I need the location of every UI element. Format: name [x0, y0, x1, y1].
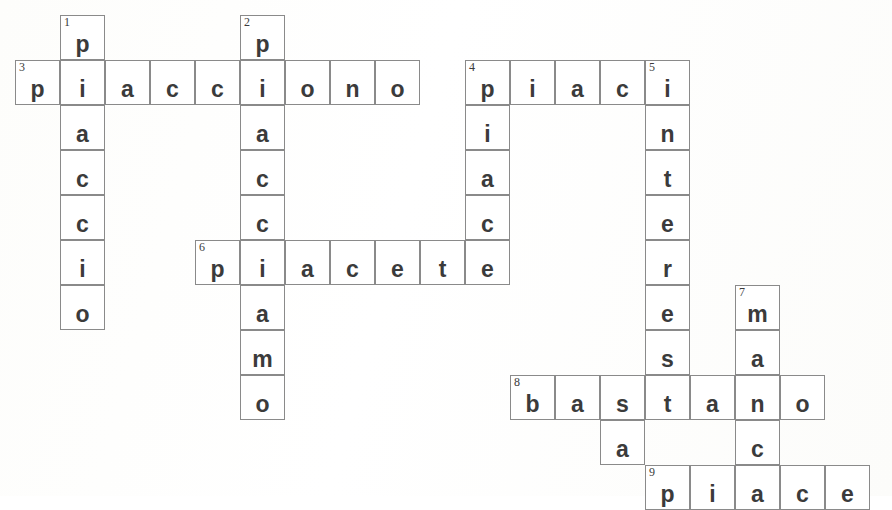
- crossword-cell[interactable]: o: [780, 375, 825, 420]
- cell-letter: i: [646, 76, 689, 102]
- cell-letter: a: [106, 76, 149, 102]
- crossword-cell[interactable]: e: [645, 195, 690, 240]
- crossword-cell[interactable]: a: [555, 375, 600, 420]
- crossword-cell[interactable]: t: [420, 240, 465, 285]
- crossword-cell[interactable]: a: [555, 60, 600, 105]
- crossword-cell[interactable]: c: [60, 150, 105, 195]
- crossword-cell[interactable]: 2p: [240, 15, 285, 60]
- crossword-cell[interactable]: i: [690, 465, 735, 510]
- cell-letter: c: [331, 256, 374, 282]
- crossword-cell[interactable]: a: [240, 285, 285, 330]
- crossword-cell[interactable]: i: [240, 240, 285, 285]
- crossword-cell[interactable]: s: [645, 330, 690, 375]
- cell-letter: e: [826, 481, 869, 507]
- crossword-cell[interactable]: a: [735, 330, 780, 375]
- cell-letter: s: [601, 391, 644, 417]
- crossword-cell[interactable]: e: [645, 285, 690, 330]
- cell-letter: i: [241, 256, 284, 282]
- clue-number: 7: [739, 286, 745, 299]
- crossword-cell[interactable]: o: [285, 60, 330, 105]
- crossword-cell[interactable]: e: [375, 240, 420, 285]
- clue-number: 6: [199, 241, 205, 254]
- cell-letter: b: [511, 391, 554, 417]
- crossword-cell[interactable]: c: [240, 150, 285, 195]
- crossword-cell[interactable]: 3p: [15, 60, 60, 105]
- crossword-cell[interactable]: c: [735, 420, 780, 465]
- crossword-cell[interactable]: i: [240, 60, 285, 105]
- crossword-cell[interactable]: e: [465, 240, 510, 285]
- crossword-cell[interactable]: n: [735, 375, 780, 420]
- crossword-cell[interactable]: c: [600, 60, 645, 105]
- crossword-cell[interactable]: m: [240, 330, 285, 375]
- cell-letter: c: [781, 481, 824, 507]
- cell-letter: c: [151, 76, 194, 102]
- cell-letter: p: [16, 76, 59, 102]
- crossword-cell[interactable]: c: [195, 60, 240, 105]
- crossword-cell[interactable]: a: [285, 240, 330, 285]
- cell-letter: i: [691, 481, 734, 507]
- cell-letter: i: [466, 121, 509, 147]
- cell-letter: t: [646, 391, 689, 417]
- crossword-cell[interactable]: 6p: [195, 240, 240, 285]
- crossword-cell[interactable]: o: [60, 285, 105, 330]
- crossword-cell[interactable]: n: [330, 60, 375, 105]
- cell-letter: p: [196, 256, 239, 282]
- cell-letter: m: [736, 301, 779, 327]
- crossword-cell[interactable]: c: [465, 195, 510, 240]
- cell-letter: n: [736, 391, 779, 417]
- cell-letter: n: [646, 121, 689, 147]
- crossword-cell[interactable]: 9p: [645, 465, 690, 510]
- crossword-cell[interactable]: c: [240, 195, 285, 240]
- crossword-cell[interactable]: a: [60, 105, 105, 150]
- crossword-cell[interactable]: c: [60, 195, 105, 240]
- crossword-cell[interactable]: 8b: [510, 375, 555, 420]
- cell-letter: p: [466, 76, 509, 102]
- crossword-cell[interactable]: a: [240, 105, 285, 150]
- crossword-cell[interactable]: o: [240, 375, 285, 420]
- crossword-cell[interactable]: a: [690, 375, 735, 420]
- crossword-cell[interactable]: c: [150, 60, 195, 105]
- clue-number: 4: [469, 61, 475, 74]
- crossword-cell[interactable]: 5i: [645, 60, 690, 105]
- cell-letter: a: [241, 121, 284, 147]
- crossword-cell[interactable]: o: [375, 60, 420, 105]
- cell-letter: n: [331, 76, 374, 102]
- crossword-cell[interactable]: t: [645, 150, 690, 195]
- crossword-cell[interactable]: i: [510, 60, 555, 105]
- crossword-cell[interactable]: 7m: [735, 285, 780, 330]
- crossword-cell[interactable]: r: [645, 240, 690, 285]
- crossword-cell[interactable]: a: [465, 150, 510, 195]
- crossword-cell[interactable]: 4p: [465, 60, 510, 105]
- crossword-cell[interactable]: a: [735, 465, 780, 510]
- crossword-cell[interactable]: a: [600, 420, 645, 465]
- cell-letter: c: [466, 211, 509, 237]
- cell-letter: m: [241, 346, 284, 372]
- cell-letter: a: [691, 391, 734, 417]
- cell-letter: i: [61, 76, 104, 102]
- cell-letter: e: [646, 211, 689, 237]
- cell-letter: a: [241, 301, 284, 327]
- crossword-cell[interactable]: e: [825, 465, 870, 510]
- crossword-cell[interactable]: c: [780, 465, 825, 510]
- cell-letter: o: [376, 76, 419, 102]
- crossword-cell[interactable]: i: [465, 105, 510, 150]
- crossword-cell[interactable]: n: [645, 105, 690, 150]
- clue-number: 2: [244, 16, 250, 29]
- crossword-cell[interactable]: c: [330, 240, 375, 285]
- crossword-cell[interactable]: a: [105, 60, 150, 105]
- clue-number: 3: [19, 61, 25, 74]
- crossword-cell[interactable]: 1p: [60, 15, 105, 60]
- cell-letter: p: [646, 481, 689, 507]
- crossword-cell[interactable]: t: [645, 375, 690, 420]
- crossword-cell[interactable]: s: [600, 375, 645, 420]
- cell-letter: c: [241, 211, 284, 237]
- cell-letter: e: [466, 256, 509, 282]
- crossword-cell[interactable]: i: [60, 240, 105, 285]
- cell-letter: p: [61, 31, 104, 57]
- cell-letter: o: [241, 391, 284, 417]
- crossword-cell[interactable]: i: [60, 60, 105, 105]
- cell-letter: p: [241, 31, 284, 57]
- cell-letter: a: [736, 481, 779, 507]
- cell-letter: c: [196, 76, 239, 102]
